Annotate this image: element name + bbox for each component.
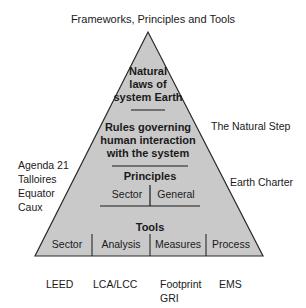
tool-gri: GRI — [160, 291, 201, 305]
rules-block: Rules governing human interaction with t… — [88, 121, 208, 160]
tools-measures: Measures — [150, 238, 206, 250]
framework-natural-step: The Natural Step — [211, 119, 290, 133]
rules-line: Rules governing — [88, 121, 208, 134]
natural-laws-line: system Earth — [98, 91, 198, 104]
tools-heading: Tools — [100, 221, 200, 234]
framework-talloires: Talloires — [18, 172, 69, 186]
framework-agenda-21: Agenda 21 — [18, 158, 69, 172]
natural-laws-line: Natural — [98, 65, 198, 78]
tool-footprint: Footprint — [160, 277, 201, 291]
principles-general: General — [150, 188, 202, 200]
tools-sector: Sector — [42, 238, 92, 250]
framework-earth-charter: Earth Charter — [230, 175, 293, 189]
tools-process: Process — [206, 238, 256, 250]
tool-ems: EMS — [219, 277, 242, 291]
tool-leed: LEED — [46, 277, 73, 291]
principles-heading: Principles — [98, 170, 202, 183]
rules-line: human interaction — [88, 134, 208, 147]
principles-sector: Sector — [104, 188, 150, 200]
tool-footprint-gri: Footprint GRI — [160, 277, 201, 305]
natural-laws-block: Natural laws of system Earth — [98, 65, 198, 104]
tools-analysis: Analysis — [92, 238, 150, 250]
framework-caux: Caux — [18, 200, 69, 214]
tool-lca-lcc: LCA/LCC — [93, 277, 137, 291]
rules-line: with the system — [88, 147, 208, 160]
framework-equator: Equator — [18, 186, 69, 200]
frameworks-left: Agenda 21 Talloires Equator Caux — [18, 158, 69, 214]
natural-laws-line: laws of — [98, 78, 198, 91]
